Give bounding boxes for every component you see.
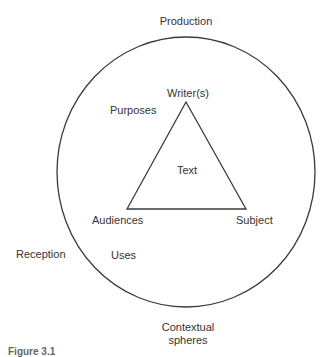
label-uses: Uses [111, 249, 136, 262]
label-contextual-line1: Contextual [162, 321, 215, 334]
figure-caption: Figure 3.1 [8, 346, 55, 357]
label-writers: Writer(s) [167, 87, 209, 100]
label-audiences: Audiences [92, 214, 143, 227]
label-text: Text [177, 164, 197, 177]
label-subject: Subject [236, 214, 273, 227]
label-contextual-line2: spheres [162, 334, 215, 347]
label-reception: Reception [16, 248, 66, 261]
rhetorical-triangle [127, 102, 246, 209]
label-purposes: Purposes [110, 104, 156, 117]
label-production: Production [160, 15, 213, 28]
label-contextual-spheres: Contextual spheres [162, 321, 215, 347]
